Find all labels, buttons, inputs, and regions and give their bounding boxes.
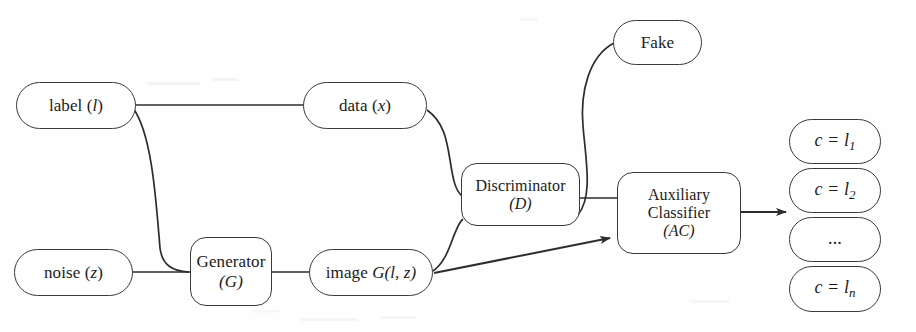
node-image-var: G(l, z) — [372, 263, 416, 282]
node-auxiliary-classifier-line1: Auxiliary — [648, 186, 710, 204]
node-data-text: data ( — [339, 96, 378, 115]
edge-label-to-generator — [133, 108, 189, 272]
node-out2-sub: 2 — [849, 187, 856, 202]
node-fake[interactable]: Fake — [613, 20, 702, 65]
node-auxiliary-classifier[interactable]: Auxiliary Classifier (AC) — [617, 172, 741, 254]
node-discriminator-line2: (D) — [509, 195, 532, 213]
node-out1-sub: 1 — [849, 138, 856, 153]
node-label[interactable]: label (l) — [16, 82, 136, 129]
diagram-canvas: label (l) noise (z) Generator (G) data (… — [0, 0, 916, 332]
node-auxiliary-classifier-line3: (AC) — [663, 222, 695, 240]
node-data[interactable]: data (x) — [303, 82, 427, 129]
node-label-close: ) — [97, 96, 103, 115]
node-data-close: ) — [385, 96, 391, 115]
node-discriminator-line1: Discriminator — [475, 177, 565, 195]
node-label-text: label ( — [49, 96, 93, 115]
node-generator-line2: (G) — [219, 272, 243, 291]
node-out2-lhs: c = l — [814, 179, 849, 199]
edge-layer — [0, 0, 916, 332]
node-generator-line1: Generator — [197, 252, 266, 271]
node-image[interactable]: image G(l, z) — [309, 249, 433, 296]
node-output-ellipsis[interactable]: ... — [789, 217, 881, 262]
node-generator[interactable]: Generator (G) — [190, 237, 272, 306]
node-out3-lhs: ... — [828, 228, 842, 248]
node-out1-lhs: c = l — [814, 130, 849, 150]
node-noise[interactable]: noise (z) — [14, 249, 133, 296]
edge-discriminator-to-fake — [578, 43, 614, 215]
node-output-c-equals-l2[interactable]: c = l2 — [789, 168, 881, 213]
node-image-text: image — [326, 263, 372, 282]
edge-image-to-discriminator — [433, 219, 463, 271]
edge-image-to-auxiliary-classifier — [434, 238, 610, 273]
node-noise-close: ) — [97, 263, 103, 282]
node-output-c-equals-l1[interactable]: c = l1 — [789, 119, 881, 164]
node-fake-text: Fake — [641, 33, 674, 52]
node-noise-text: noise ( — [44, 263, 91, 282]
node-outn-lhs: c = l — [814, 277, 849, 297]
node-outn-sub: n — [849, 285, 856, 300]
node-output-c-equals-ln[interactable]: c = ln — [789, 266, 881, 312]
node-auxiliary-classifier-line2: Classifier — [648, 204, 710, 222]
edge-data-to-discriminator — [427, 110, 462, 196]
node-discriminator[interactable]: Discriminator (D) — [461, 163, 580, 226]
